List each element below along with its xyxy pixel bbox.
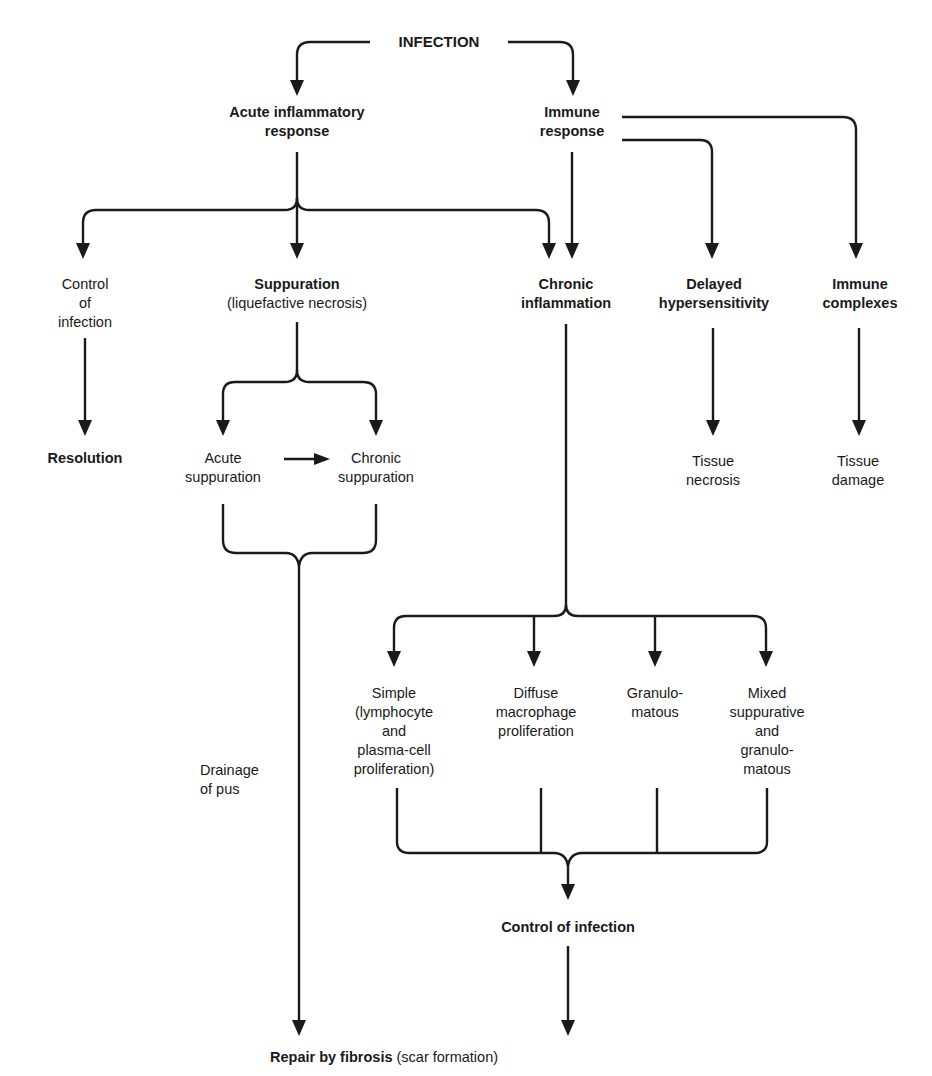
label-line: proliferation) xyxy=(332,760,456,779)
label-normal: (scar formation) xyxy=(392,1049,498,1065)
label-line: inflammation xyxy=(506,294,626,313)
node-tissue-necrosis: Tissue necrosis xyxy=(663,452,763,490)
label-line: Chronic xyxy=(506,275,626,294)
label-line: damage xyxy=(808,471,908,490)
label-line: Simple xyxy=(332,684,456,703)
node-simple: Simple (lymphocyte and plasma-cell proli… xyxy=(332,684,456,779)
label-line: Mixed xyxy=(714,684,820,703)
node-chronic-inflammation: Chronic inflammation xyxy=(506,275,626,313)
node-immune-complexes: Immune complexes xyxy=(808,275,912,313)
label-line: of pus xyxy=(200,780,280,799)
label-line: Immune xyxy=(808,275,912,294)
node-acute-inflammatory-response: Acute inflammatory response xyxy=(200,103,394,141)
label-line: suppuration xyxy=(168,468,278,487)
edge-infection-acute xyxy=(297,42,370,92)
label-line: Control of infection xyxy=(478,918,658,937)
label-line: macrophage xyxy=(478,703,594,722)
label-line: complexes xyxy=(808,294,912,313)
node-drainage-of-pus: Drainage of pus xyxy=(200,761,280,799)
node-control-of-infection-bottom: Control of infection xyxy=(478,918,658,937)
label-line: Tissue xyxy=(808,452,908,471)
label-line: proliferation xyxy=(478,722,594,741)
label-line: Delayed xyxy=(642,275,786,294)
label-line: Granulo- xyxy=(610,684,700,703)
label-line: necrosis xyxy=(663,471,763,490)
label-line: and xyxy=(332,722,456,741)
node-suppuration: Suppuration (liquefactive necrosis) xyxy=(197,275,397,313)
label-line: matous xyxy=(610,703,700,722)
node-immune-response: Immune response xyxy=(522,103,622,141)
node-control-of-infection-left: Control of infection xyxy=(35,275,135,332)
label-line: suppuration xyxy=(318,468,434,487)
label-line: response xyxy=(522,122,622,141)
node-diffuse-macrophage: Diffuse macrophage proliferation xyxy=(478,684,594,741)
node-chronic-suppuration: Chronic suppuration xyxy=(318,449,434,487)
label-line: Drainage xyxy=(200,761,280,780)
label-line: infection xyxy=(35,313,135,332)
label-line: Control xyxy=(35,275,135,294)
label-line: matous xyxy=(714,760,820,779)
label-line: Resolution xyxy=(25,449,145,468)
node-infection: INFECTION xyxy=(370,32,508,51)
label-line: hypersensitivity xyxy=(642,294,786,313)
label-line: (liquefactive necrosis) xyxy=(197,294,397,313)
node-infection-label: INFECTION xyxy=(370,32,508,51)
label-line: response xyxy=(200,122,394,141)
node-acute-suppuration: Acute suppuration xyxy=(168,449,278,487)
label-line: of xyxy=(35,294,135,313)
node-resolution: Resolution xyxy=(25,449,145,468)
node-granulomatous: Granulo- matous xyxy=(610,684,700,722)
node-repair-by-fibrosis: Repair by fibrosis (scar formation) xyxy=(270,1048,610,1067)
node-mixed: Mixed suppurative and granulo- matous xyxy=(714,684,820,779)
label-line: Chronic xyxy=(318,449,434,468)
label-bold: Repair by fibrosis xyxy=(270,1049,392,1065)
label-line: suppurative xyxy=(714,703,820,722)
label-line: Suppuration xyxy=(197,275,397,294)
label-line: Acute inflammatory xyxy=(200,103,394,122)
label-line: Diffuse xyxy=(478,684,594,703)
label-line: (lymphocyte xyxy=(332,703,456,722)
label-line: granulo- xyxy=(714,741,820,760)
label-line: and xyxy=(714,722,820,741)
node-tissue-damage: Tissue damage xyxy=(808,452,908,490)
label-line: Immune xyxy=(522,103,622,122)
label-line: plasma-cell xyxy=(332,741,456,760)
connector-lines xyxy=(0,0,932,1076)
label-line: Acute xyxy=(168,449,278,468)
label-line: Tissue xyxy=(663,452,763,471)
node-delayed-hypersensitivity: Delayed hypersensitivity xyxy=(642,275,786,313)
